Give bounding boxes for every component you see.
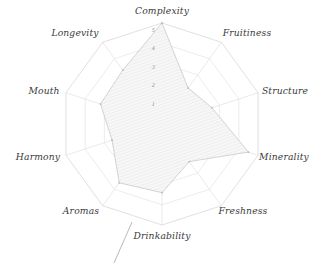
- data-point-complexity: [161, 22, 163, 24]
- axis-label-mouth: Mouth: [27, 85, 59, 96]
- axis-label-aromas: Aromas: [62, 205, 99, 216]
- data-point-longevity: [122, 69, 124, 71]
- tick-label-4: 4: [151, 45, 155, 51]
- axis-label-minerality: Minerality: [258, 151, 309, 162]
- data-point-minerality: [248, 151, 250, 153]
- tick-label-2: 2: [151, 82, 155, 88]
- axis-label-harmony: Harmony: [15, 151, 61, 162]
- data-point-harmony: [111, 139, 113, 141]
- data-point-mouth: [100, 103, 102, 105]
- axis-label-longevity: Longevity: [50, 27, 99, 38]
- tick-label-1: 1: [152, 101, 155, 107]
- data-point-aromas: [118, 182, 120, 184]
- axis-label-drinkability: Drinkability: [132, 230, 191, 241]
- drinkability-leader-line: [114, 222, 132, 263]
- axis-label-fruitiness: Fruitiness: [222, 27, 272, 38]
- data-point-freshness: [188, 161, 190, 163]
- axis-label-freshness: Freshness: [218, 205, 268, 216]
- axis-label-structure: Structure: [262, 85, 309, 96]
- tick-label-5: 5: [152, 27, 155, 33]
- data-point-drinkability: [161, 192, 163, 194]
- data-point-structure: [211, 107, 213, 109]
- radar-chart-svg: Complexity Fruitiness Structure Minerali…: [0, 0, 324, 267]
- data-point-fruitiness: [187, 87, 189, 89]
- axis-label-complexity: Complexity: [135, 5, 190, 16]
- radar-chart: Complexity Fruitiness Structure Minerali…: [0, 0, 324, 267]
